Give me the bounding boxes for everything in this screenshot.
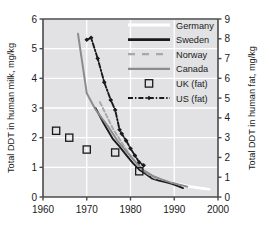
- legend-label: Canada: [176, 64, 209, 74]
- y-tick-label-right: 0: [225, 192, 231, 203]
- y-tick-label-left: 5: [31, 43, 37, 54]
- y-axis-right-title: Total DDT in human fat, mg/kg: [247, 46, 257, 170]
- y-tick-label-right: 7: [225, 53, 231, 64]
- chart-canvas: 0123456012345678919601970198019902000Tot…: [0, 0, 269, 235]
- y-tick-label-left: 3: [31, 103, 37, 114]
- legend-label: Sweden: [176, 35, 209, 45]
- y-tick-label-right: 3: [225, 132, 231, 143]
- legend-label: Germany: [176, 21, 214, 31]
- x-tick-label: 1970: [76, 204, 99, 215]
- y-tick-label-right: 1: [225, 172, 231, 183]
- y-tick-label-right: 2: [225, 152, 231, 163]
- y-tick-label-right: 4: [225, 112, 231, 123]
- x-tick-label: 1990: [163, 204, 186, 215]
- y-axis-left-title: Total DDT in human milk, mg/kg: [6, 43, 16, 173]
- y-tick-label-left: 4: [31, 73, 37, 84]
- y-tick-label-right: 9: [225, 14, 231, 25]
- y-tick-label-left: 6: [31, 14, 37, 25]
- y-tick-label-left: 2: [31, 132, 37, 143]
- legend-label: UK (fat): [176, 79, 208, 89]
- x-tick-label: 2000: [207, 204, 230, 215]
- y-tick-label-right: 5: [225, 93, 231, 104]
- legend-label: US (fat): [176, 94, 208, 104]
- x-tick-label: 1960: [32, 204, 55, 215]
- y-tick-label-right: 8: [225, 33, 231, 44]
- legend-label: Norway: [176, 50, 208, 60]
- y-tick-label-right: 6: [225, 73, 231, 84]
- x-tick-label: 1980: [119, 204, 142, 215]
- y-tick-label-left: 1: [31, 162, 37, 173]
- ddt-trend-chart: 0123456012345678919601970198019902000Tot…: [0, 0, 269, 235]
- y-tick-label-left: 0: [31, 192, 37, 203]
